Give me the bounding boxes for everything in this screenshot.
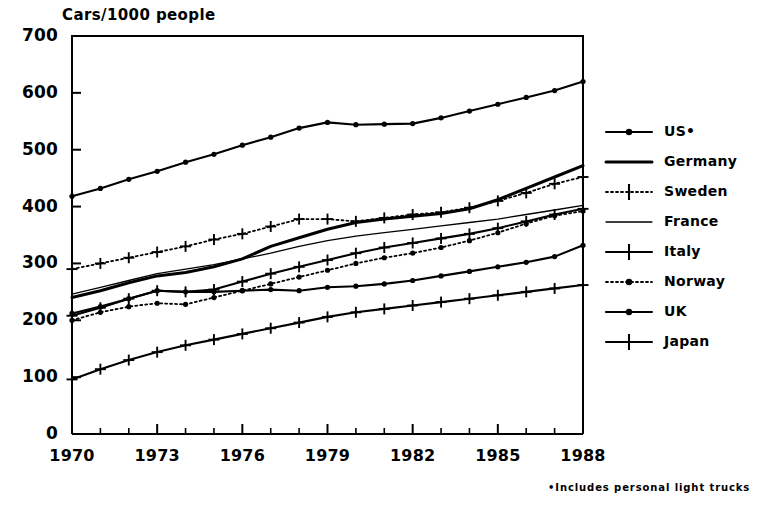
legend-item-uk[interactable]: UK — [604, 298, 760, 328]
x-tick-label: 1970 — [37, 446, 107, 465]
legend-line-sample — [604, 328, 654, 356]
legend-item-label: Norway — [664, 273, 725, 289]
footnote-text: •Includes personal light trucks — [548, 482, 750, 493]
y-tick-label: 300 — [0, 252, 58, 272]
legend-item-label: Italy — [664, 243, 701, 259]
y-tick-label: 100 — [0, 366, 58, 386]
x-tick-label: 1973 — [122, 446, 192, 465]
legend-line-sample — [604, 178, 654, 206]
legend-item-france[interactable]: France — [604, 208, 760, 238]
legend-item-label: Sweden — [664, 183, 728, 199]
x-tick-label: 1976 — [207, 446, 277, 465]
axis-group — [72, 36, 583, 434]
legend-item-label: Japan — [664, 333, 710, 349]
legend-line-sample — [604, 268, 654, 296]
series-germany — [72, 166, 583, 298]
y-tick-label: 500 — [0, 139, 58, 159]
chart-figure: Cars/1000 people 0100200300400500600700 … — [0, 0, 764, 516]
legend-line-sample — [604, 298, 654, 326]
x-tick-label: 1985 — [463, 446, 533, 465]
legend-item-label: Germany — [664, 153, 737, 169]
legend-item-sweden[interactable]: Sweden — [604, 178, 760, 208]
legend-item-norway[interactable]: Norway — [604, 268, 760, 298]
y-tick-label: 0 — [0, 423, 58, 443]
legend-item-japan[interactable]: Japan — [604, 328, 760, 358]
y-tick-label: 200 — [0, 309, 58, 329]
x-tick-label: 1979 — [293, 446, 363, 465]
legend-item-us[interactable]: US• — [604, 118, 760, 148]
y-tick-label: 600 — [0, 82, 58, 102]
x-tick-label: 1982 — [378, 446, 448, 465]
legend-item-label: France — [664, 213, 719, 229]
legend-item-label: UK — [664, 303, 687, 319]
legend-line-sample — [604, 208, 654, 236]
series-us — [69, 79, 585, 199]
legend-line-sample — [604, 238, 654, 266]
y-tick-label: 700 — [0, 25, 58, 45]
legend-item-italy[interactable]: Italy — [604, 238, 760, 268]
y-tick-label: 400 — [0, 196, 58, 216]
series-group — [67, 79, 589, 385]
legend-item-label: US• — [664, 123, 695, 139]
legend-line-sample — [604, 148, 654, 176]
series-japan — [67, 280, 589, 385]
x-tick-label: 1988 — [548, 446, 618, 465]
chart-legend: US•GermanySwedenFranceItalyNorwayUKJapan — [604, 118, 760, 358]
legend-item-germany[interactable]: Germany — [604, 148, 760, 178]
legend-line-sample — [604, 118, 654, 146]
